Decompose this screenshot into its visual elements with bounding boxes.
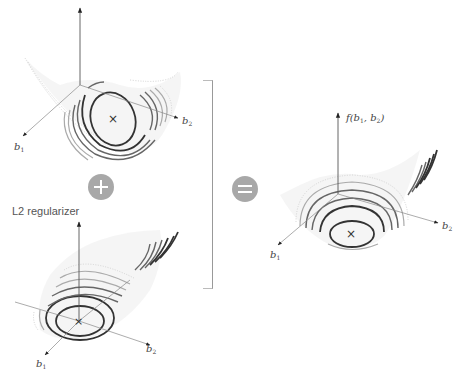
l2-surface-mesh: [39, 230, 162, 339]
combined-b1-label: b1: [270, 249, 280, 261]
grouping-bracket: [203, 80, 213, 289]
loss-surface-plot: × b2 b1: [14, 8, 192, 160]
loss-b2-label: b2: [182, 115, 192, 127]
diagram-canvas: × b2 b1 × b2 b1: [0, 0, 460, 373]
combined-minimum-marker: ×: [346, 227, 356, 241]
l2-b2-label: b2: [146, 343, 156, 355]
l2-b1-label: b1: [36, 358, 46, 370]
combined-vertical-label: f(b1, b2): [345, 112, 384, 124]
equals-icon: [232, 176, 258, 202]
l2-regularizer-plot: × b2 b1: [15, 222, 178, 370]
loss-minimum-marker: ×: [108, 112, 118, 126]
l2-regularizer-title: L2 regularizer: [12, 205, 79, 217]
plus-icon: [88, 174, 114, 200]
loss-b1-label: b1: [14, 141, 24, 153]
loss-surface-mesh: [25, 58, 181, 153]
l2-minimum-marker: ×: [74, 315, 83, 328]
combined-b2-label: b2: [442, 220, 452, 232]
combined-surface-plot: × f(b1, b2) b2 b1: [270, 112, 452, 261]
